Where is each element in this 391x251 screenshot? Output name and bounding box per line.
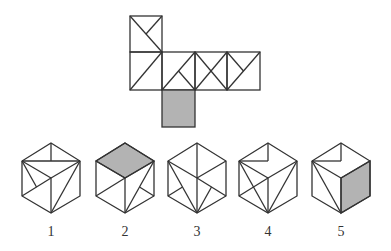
net-half-line	[227, 52, 244, 71]
net-half-line	[179, 71, 196, 90]
shaded-top-face	[96, 143, 154, 178]
puzzle-diagram	[0, 0, 391, 251]
cube-option-1	[22, 143, 80, 213]
cube-option-3	[168, 143, 226, 213]
left-diagonal	[239, 178, 268, 196]
option-label-2: 2	[115, 224, 135, 240]
cube-option-5	[312, 143, 370, 213]
net-half-line	[146, 16, 162, 34]
cube-net	[130, 16, 260, 127]
option-label-5: 5	[331, 224, 351, 240]
left-diagonal	[96, 178, 125, 196]
net-face-bottom-shaded	[162, 90, 195, 127]
cube-edge	[197, 161, 226, 178]
option-label-1: 1	[41, 224, 61, 240]
cube-option-4	[239, 143, 297, 213]
left-half-line	[168, 187, 183, 196]
right-half-line	[140, 187, 155, 196]
net-diagonal	[130, 52, 162, 90]
cube-options	[22, 143, 370, 213]
cube-option-2	[96, 143, 154, 213]
option-label-3: 3	[187, 224, 207, 240]
option-label-4: 4	[258, 224, 278, 240]
